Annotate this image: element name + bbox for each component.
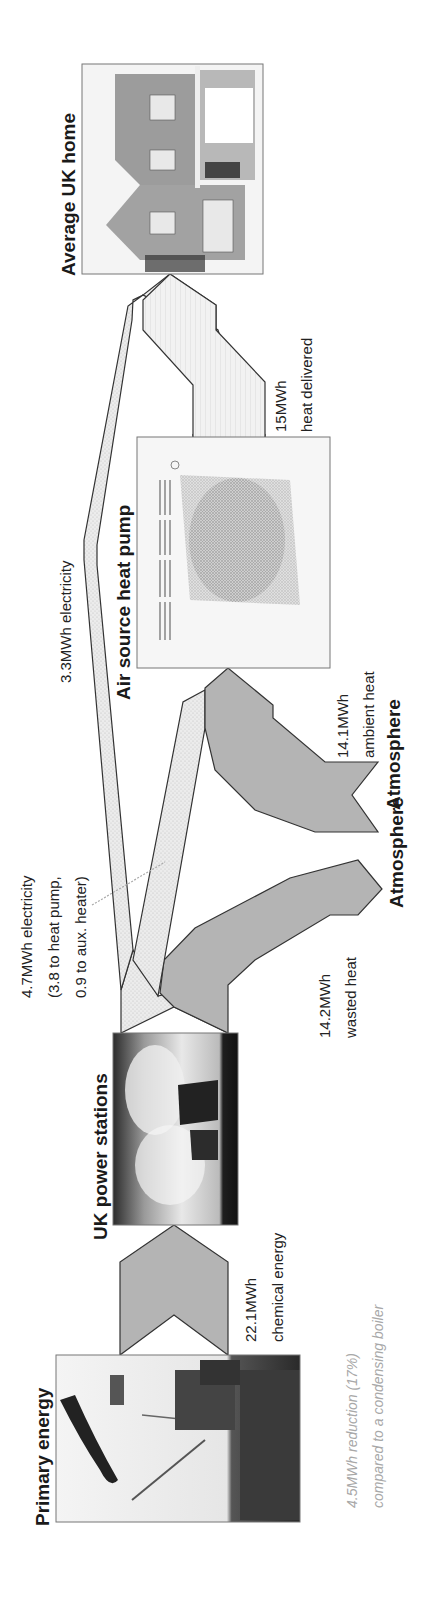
reduction-note-line1: 4.5MWh reduction (17%) [344,1353,360,1508]
energy-flow-diagram: Primary energy UK power stations Air sou… [0,0,427,1621]
delivered-desc: heat delivered [298,338,315,432]
primary-energy-label: Primary energy [32,1387,53,1526]
delivered-value: 15MWh [272,380,289,432]
electricity-total-line3: 0.9 to aux. heater) [72,876,89,998]
ambient-desc: ambient heat [360,670,377,758]
home-label: Average UK home [58,113,79,276]
heat-pump-label: Air source heat pump [113,505,134,700]
heat-delivered-flow-main [143,274,265,460]
power-stations-photo [113,1033,238,1225]
ambient-value: 14.1MWh [334,694,351,758]
electricity-total-line2: (3.8 to heat pump, [45,876,62,998]
chemical-value: 22.1MWh [242,1278,259,1342]
reduction-note-line2: compared to a condensing boiler [370,1304,386,1508]
atmosphere-label-ambient: Atmosphere [383,699,404,810]
electricity-total-line1: 4.7MWh electricity [18,875,35,998]
wasted-value: 14.2MWh [316,974,333,1038]
chemical-energy-flow [120,1225,228,1355]
primary-energy-photo [56,1355,300,1522]
wasted-desc: wasted heat [342,956,359,1039]
atmosphere-label-wasted: Atmosphere [386,797,407,908]
ambient-heat-flow [205,668,378,832]
power-stations-label: UK power stations [90,1073,111,1240]
home-photo [82,64,263,274]
electricity-direct-label: 3.3MWh electricity [57,560,74,683]
heat-pump-photo [137,437,330,668]
chemical-desc: chemical energy [269,1232,286,1342]
